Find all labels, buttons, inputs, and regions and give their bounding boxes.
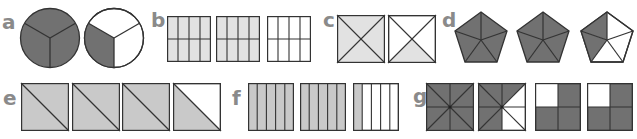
figure-f-rect-3: [353, 83, 399, 131]
label-e: e: [3, 88, 17, 108]
figure-g-square-1: [426, 83, 474, 131]
figure-g-square-3: [535, 83, 581, 131]
figure-e-square-3: [122, 83, 170, 131]
label-c: c: [323, 10, 335, 30]
figure-b-rect-1: [167, 16, 211, 62]
figure-b-rect-2: [216, 16, 260, 62]
figure-a-circle-2: [83, 7, 145, 69]
figure-d-pentagon-2: [516, 11, 570, 63]
figure-a-circle-1: [19, 7, 81, 69]
label-a: a: [2, 12, 16, 32]
figure-e-square-1: [21, 83, 69, 131]
figure-g-square-2: [478, 83, 526, 131]
figure-e-square-4: [173, 83, 221, 131]
figure-d-pentagon-1: [454, 11, 508, 63]
figure-f-rect-2: [300, 83, 346, 131]
figure-c-square-2: [388, 15, 436, 63]
figure-g-square-4: [587, 83, 633, 131]
figure-b-rect-3: [267, 16, 311, 62]
label-b: b: [151, 10, 165, 30]
label-f: f: [232, 88, 241, 108]
figure-d-pentagon-3: [580, 11, 634, 63]
figure-e-square-2: [72, 83, 120, 131]
figure-c-square-1: [337, 15, 385, 63]
figure-f-rect-1: [248, 83, 294, 131]
